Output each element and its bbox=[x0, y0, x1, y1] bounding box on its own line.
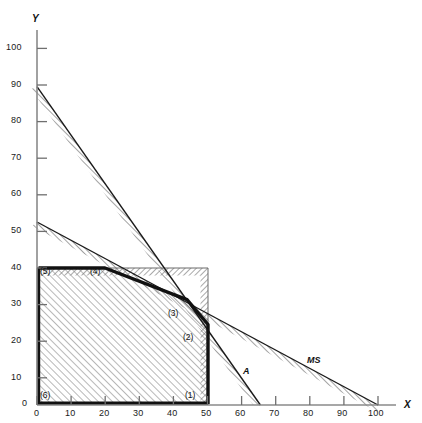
constraint-label-ms: MS bbox=[307, 355, 321, 365]
x-tick-label: 70 bbox=[269, 408, 279, 418]
x-tick-label: 80 bbox=[303, 408, 313, 418]
x-tick-label: 90 bbox=[337, 408, 347, 418]
y-tick-label: 60 bbox=[11, 188, 21, 198]
vertex-label-2: (2) bbox=[183, 332, 193, 342]
y-tick-label: 100 bbox=[6, 42, 22, 52]
vertex-label-1: (1) bbox=[185, 390, 195, 400]
y-tick-label: 20 bbox=[11, 335, 21, 345]
y-tick-label: 30 bbox=[11, 298, 21, 308]
y-tick-label: 40 bbox=[11, 262, 21, 272]
vertex-label-5: (5) bbox=[40, 266, 50, 276]
y-tick-label: 10 bbox=[11, 372, 21, 382]
vertex-label-4: (4) bbox=[90, 266, 100, 276]
x-tick-label: 60 bbox=[235, 408, 245, 418]
x-tick-label: 0 bbox=[34, 408, 39, 418]
x-tick-label: 10 bbox=[65, 408, 75, 418]
x-axis-title: X bbox=[404, 399, 411, 410]
y-axis-title: Y bbox=[32, 13, 39, 24]
y-tick-label: 70 bbox=[11, 152, 21, 162]
y-tick-label: 0 bbox=[22, 398, 27, 408]
vertex-label-3: (3) bbox=[168, 308, 178, 318]
x-tick-label: 100 bbox=[368, 408, 384, 418]
figure-container: Y X 100 90 80 70 60 50 40 30 20 10 0 0 1… bbox=[0, 0, 422, 423]
x-tick-label: 50 bbox=[201, 408, 211, 418]
constraint-label-a: A bbox=[243, 366, 250, 376]
y-tick-label: 90 bbox=[11, 79, 21, 89]
linear-programming-plot bbox=[0, 0, 422, 423]
y-tick-label: 50 bbox=[11, 225, 21, 235]
x-tick-label: 20 bbox=[99, 408, 109, 418]
y-tick-label: 80 bbox=[11, 115, 21, 125]
x-tick-label: 30 bbox=[133, 408, 143, 418]
x-tick-label: 40 bbox=[167, 408, 177, 418]
vertex-label-6: (6) bbox=[40, 390, 50, 400]
